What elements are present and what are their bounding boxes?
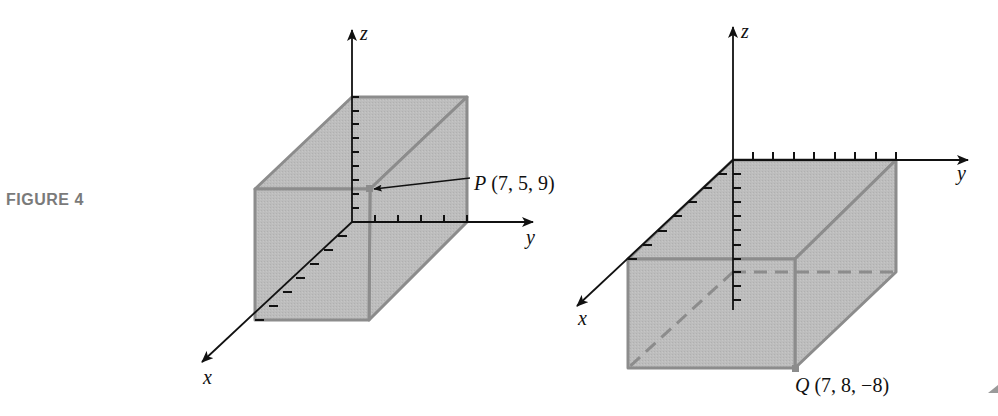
right-y-axis-label: y <box>955 162 966 185</box>
right-z-axis-label: z <box>740 20 749 42</box>
right-box-front-face <box>628 259 795 368</box>
point-p-coords: (7, 5, 9) <box>491 172 554 195</box>
point-p-label: P (7, 5, 9) <box>473 172 555 195</box>
point-q-label: Q (7, 8, −8) <box>795 374 889 397</box>
point-p-marker <box>366 185 373 192</box>
point-q-marker <box>792 365 799 372</box>
right-x-axis-label: x <box>577 307 587 329</box>
point-q-name: Q <box>795 374 810 396</box>
figure-4-container: FIGURE 4 <box>0 0 998 416</box>
left-box <box>255 97 467 320</box>
left-z-axis-label: z <box>359 22 368 44</box>
right-box <box>628 160 896 372</box>
left-diagram: z y x P (7, 5, 9) <box>202 22 555 388</box>
left-y-axis-label: y <box>524 226 535 249</box>
left-x-axis-label: x <box>202 366 212 388</box>
point-q-annotation: Q (7, 8, −8) <box>795 374 889 397</box>
scan-artifact <box>988 385 998 393</box>
point-q-coords: (7, 8, −8) <box>814 374 889 397</box>
figure-svg: z y x P (7, 5, 9) <box>0 0 998 416</box>
point-p-name: P <box>473 172 486 194</box>
right-diagram: z y x Q (7, 8, −8) <box>577 20 968 397</box>
